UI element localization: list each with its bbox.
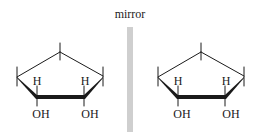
atom-oh-right: OH (222, 107, 240, 121)
bond-back-right (201, 52, 244, 76)
atom-oh-right: OH (81, 107, 99, 121)
atom-h-left: H (174, 74, 183, 88)
atom-oh-left: OH (32, 107, 50, 121)
bond-back-right (60, 52, 103, 76)
atom-oh-left: OH (173, 107, 191, 121)
atom-h-right: H (222, 74, 231, 88)
bond-front-bold (36, 95, 85, 99)
mirror-plane (127, 27, 133, 132)
mirror-image-diagram: mirror H H OH OH H H (0, 0, 258, 139)
molecule-right (158, 43, 244, 106)
mirror-label: mirror (115, 7, 146, 21)
molecule-left (17, 43, 103, 106)
atom-h-right: H (81, 74, 90, 88)
diagram-canvas: mirror H H OH OH H H (0, 0, 258, 139)
atom-h-left: H (33, 74, 42, 88)
bond-front-bold (177, 95, 226, 99)
